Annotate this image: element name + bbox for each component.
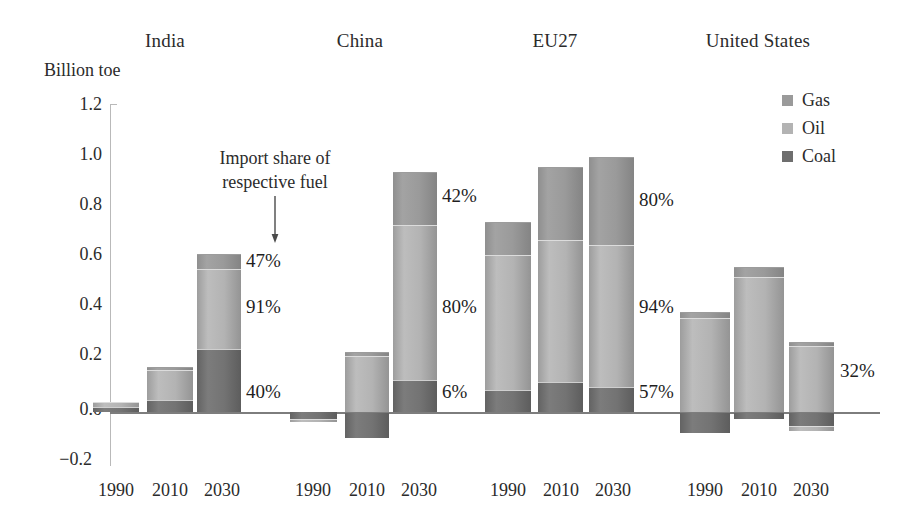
segment-gas xyxy=(734,267,784,277)
segment-oil xyxy=(197,269,241,349)
x-tick-china-2010: 2010 xyxy=(337,480,397,501)
bar-eu27-2010[interactable] xyxy=(538,167,583,412)
segment-coal xyxy=(734,413,784,419)
x-tick-us-1990: 1990 xyxy=(675,480,735,501)
segment-coal xyxy=(589,387,634,412)
y-tick-0.4: 0.4 xyxy=(42,294,102,315)
bar-us-2030[interactable] xyxy=(789,342,834,412)
x-tick-eu27-1990: 1990 xyxy=(478,480,538,501)
segment-coal xyxy=(789,413,834,426)
segment-coal xyxy=(485,390,531,412)
segment-gas xyxy=(589,157,634,245)
segment-coal xyxy=(393,380,437,412)
bar-china-2010[interactable] xyxy=(345,352,389,412)
segment-oil xyxy=(147,370,193,400)
segment-oil xyxy=(485,255,531,390)
import-share-eu27-oil: 94% xyxy=(639,296,674,318)
segment-coal xyxy=(680,413,730,433)
group-title-china: China xyxy=(315,30,405,52)
segment-coal xyxy=(147,400,193,412)
bar-us-1990[interactable] xyxy=(680,312,730,412)
segment-oil xyxy=(789,426,834,431)
chart-canvas: India China EU27 United States Billion t… xyxy=(0,0,902,519)
bar-eu27-2030[interactable] xyxy=(589,157,634,412)
y-tick-neg0.2: −0.2 xyxy=(32,449,92,470)
x-tick-india-2010: 2010 xyxy=(140,480,200,501)
legend-item-gas[interactable]: Gas xyxy=(782,88,836,112)
x-tick-us-2010: 2010 xyxy=(729,480,789,501)
bar-china-1990[interactable] xyxy=(290,412,337,422)
annotation-line-2: respective fuel xyxy=(190,170,360,194)
group-title-eu27: EU27 xyxy=(510,30,600,52)
import-share-us-oil: 32% xyxy=(840,360,875,382)
bar-china-2030[interactable] xyxy=(393,172,437,412)
import-share-china-coal: 6% xyxy=(442,381,467,403)
import-share-china-gas: 42% xyxy=(442,185,477,207)
x-tick-china-2030: 2030 xyxy=(389,480,449,501)
x-tick-eu27-2010: 2010 xyxy=(531,480,591,501)
segment-gas xyxy=(485,222,531,255)
segment-oil xyxy=(589,245,634,387)
segment-gas xyxy=(393,172,437,225)
legend-item-oil[interactable]: Oil xyxy=(782,116,836,140)
bar-india-1990[interactable] xyxy=(93,402,139,412)
legend-item-coal[interactable]: Coal xyxy=(782,144,836,168)
legend-swatch-gas-icon xyxy=(782,95,793,106)
bar-india-2030[interactable] xyxy=(197,254,241,412)
segment-oil xyxy=(290,419,337,422)
x-tick-china-1990: 1990 xyxy=(283,480,343,501)
segment-coal xyxy=(290,412,337,419)
x-tick-india-2030: 2030 xyxy=(192,480,252,501)
segment-gas xyxy=(538,167,583,240)
import-share-india-oil: 91% xyxy=(246,296,281,318)
legend: Gas Oil Coal xyxy=(782,88,836,172)
x-tick-us-2030: 2030 xyxy=(781,480,841,501)
segment-coal xyxy=(93,407,139,412)
y-axis-top-tick xyxy=(110,104,117,105)
segment-oil xyxy=(345,356,389,412)
import-share-india-gas: 47% xyxy=(246,250,281,272)
legend-label-gas: Gas xyxy=(802,90,830,111)
legend-swatch-oil-icon xyxy=(782,123,793,134)
y-tick-1.0: 1.0 xyxy=(42,144,102,165)
group-title-india: India xyxy=(120,30,210,52)
segment-oil xyxy=(734,277,784,412)
bar-india-2010[interactable] xyxy=(147,367,193,412)
segment-coal xyxy=(345,413,389,438)
y-axis-unit-label: Billion toe xyxy=(44,60,121,81)
x-tick-india-1990: 1990 xyxy=(86,480,146,501)
y-tick-0.8: 0.8 xyxy=(42,194,102,215)
legend-label-oil: Oil xyxy=(802,118,825,139)
import-share-eu27-gas: 80% xyxy=(639,189,674,211)
segment-oil xyxy=(789,346,834,412)
group-title-united-states: United States xyxy=(678,30,838,52)
x-tick-eu27-2030: 2030 xyxy=(583,480,643,501)
segment-gas xyxy=(197,254,241,269)
segment-coal xyxy=(197,349,241,412)
import-share-india-coal: 40% xyxy=(246,381,281,403)
bar-eu27-1990[interactable] xyxy=(485,222,531,412)
legend-swatch-coal-icon xyxy=(782,151,793,162)
annotation-line-1: Import share of xyxy=(190,146,360,170)
down-arrow-icon xyxy=(270,196,280,244)
y-tick-0.2: 0.2 xyxy=(42,344,102,365)
segment-oil xyxy=(538,240,583,382)
y-tick-1.2: 1.2 xyxy=(42,94,102,115)
y-tick-0.6: 0.6 xyxy=(42,244,102,265)
bar-us-2010-coal-negative[interactable] xyxy=(734,413,784,419)
import-share-eu27-coal: 57% xyxy=(639,381,674,403)
import-share-china-oil: 80% xyxy=(442,296,477,318)
segment-oil xyxy=(393,225,437,380)
bar-us-1990-coal-negative[interactable] xyxy=(680,413,730,433)
legend-label-coal: Coal xyxy=(802,146,836,167)
bar-us-2010[interactable] xyxy=(734,267,784,412)
segment-oil xyxy=(680,318,730,412)
bar-us-2030-coal-negative[interactable] xyxy=(789,413,834,431)
segment-coal xyxy=(538,382,583,412)
bar-china-2010-coal-negative[interactable] xyxy=(345,413,389,438)
